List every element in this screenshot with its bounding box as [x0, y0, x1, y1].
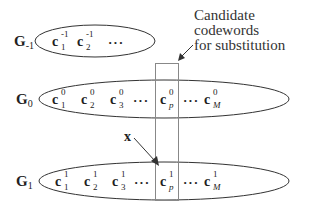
codeword-c3-1: c13: [112, 175, 118, 189]
ellipsis-g-minus1: ···: [108, 35, 124, 51]
annotation-arrow: [181, 45, 193, 57]
input-vector-x: x: [124, 129, 131, 145]
group-label-g0: G0: [16, 92, 33, 109]
group-label-g-minus1: G-1: [14, 34, 34, 51]
codeword-c2-1: c12: [84, 175, 90, 189]
annotation-line2: for substitution: [194, 38, 312, 53]
candidate-box: [156, 64, 179, 201]
codeword-cM-1: c1M: [204, 175, 210, 189]
codeword-c2-0: c02: [81, 93, 87, 107]
ellipsis-g0-b: ···: [183, 93, 199, 109]
group-label-g1: G1: [16, 174, 33, 191]
x-arrow: [134, 138, 155, 161]
codeword-cp-1: c1p: [160, 175, 166, 189]
codeword-c1-minus1: c-11: [52, 35, 58, 49]
codeword-cp-0: c0p: [160, 93, 166, 107]
ellipsis-g1-a: ···: [134, 175, 150, 191]
ellipsis-g0-a: ···: [133, 93, 149, 109]
ellipsis-g1-b: ···: [183, 175, 199, 191]
codeword-c3-0: c03: [110, 93, 116, 107]
codeword-c2-minus1: c-12: [77, 35, 83, 49]
codeword-c1-0: c01: [52, 93, 58, 107]
annotation-text: Candidate codewords for substitution: [194, 8, 312, 53]
annotation-line1: Candidate codewords: [194, 8, 312, 38]
codeword-cM-0: c0M: [204, 93, 210, 107]
codeword-c1-1: c11: [55, 175, 61, 189]
